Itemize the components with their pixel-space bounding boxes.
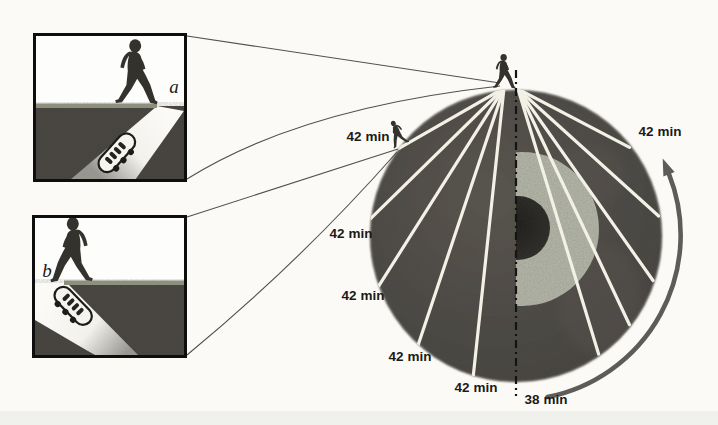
- center-tunnel-time-label: 38 min: [525, 392, 568, 407]
- surface-trip-time-label: 42 min: [639, 124, 682, 139]
- tunnel-time-label: 42 min: [389, 349, 432, 364]
- inset-a: a: [35, 35, 186, 181]
- inset-a-surface-strip: [36, 104, 157, 109]
- inset-a-label: a: [169, 76, 179, 97]
- page-bottom-gutter: [0, 411, 718, 425]
- inset-b-label: b: [42, 260, 52, 281]
- tunnel-through-earth-figure: a b 42 min 42 min 42 min 42 min 42 min 4…: [0, 0, 718, 425]
- tunnel-time-label: 42 min: [342, 288, 385, 303]
- tunnel-time-label: 42 min: [455, 380, 498, 395]
- figure-canvas: a b 42 min 42 min 42 min 42 min 42 min 4…: [0, 0, 718, 425]
- tunnel-time-label: 42 min: [330, 226, 373, 241]
- tunnel-time-label: 42 min: [347, 129, 390, 144]
- inset-b: b: [34, 217, 186, 358]
- inset-b-surface-strip: [64, 281, 184, 286]
